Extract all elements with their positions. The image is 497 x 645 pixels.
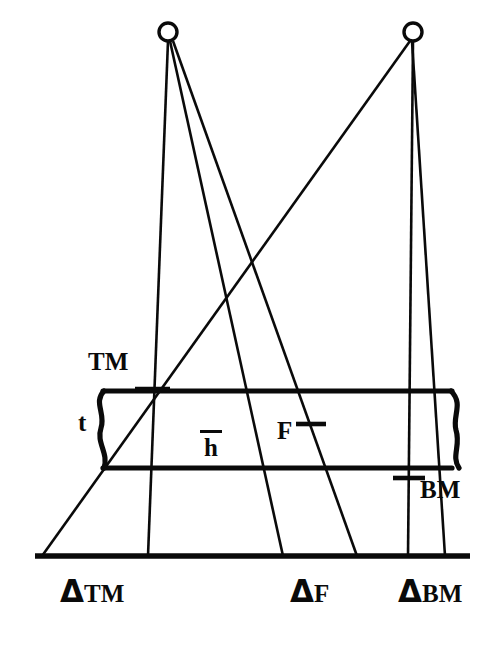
delta-subscript-f: F [314,581,329,606]
slab-left-break-brace [99,391,105,468]
ray-left-vertical [148,41,168,556]
right-source-circle [404,23,422,41]
delta-subscript-bm: BM [422,581,462,606]
delta-symbol-bm: Δ [398,576,422,607]
delta-symbol-tm: Δ [60,576,84,607]
label-thickness: t [78,410,86,435]
optics-ray-diagram: TM BM F t h ΔTM ΔF ΔBM [0,0,497,645]
figure-canvas [0,0,497,645]
ray-right-to-tm [42,41,410,556]
delta-symbol-f: Δ [290,576,314,607]
axis-label-delta-bm: ΔBM [398,576,462,607]
label-fringe: F [277,418,292,443]
h-character: h [200,435,222,460]
axis-label-delta-f: ΔF [290,576,329,607]
left-source-circle [159,23,177,41]
axis-label-delta-tm: ΔTM [60,576,124,607]
label-bottom-mark: BM [420,477,460,502]
right-source-rays [42,41,445,556]
slab-right-break-brace [451,391,459,468]
label-top-mark: TM [88,349,128,374]
label-h-bar: h [200,430,222,460]
left-source-rays [148,41,357,556]
h-overbar [200,430,222,433]
delta-subscript-tm: TM [84,581,124,606]
